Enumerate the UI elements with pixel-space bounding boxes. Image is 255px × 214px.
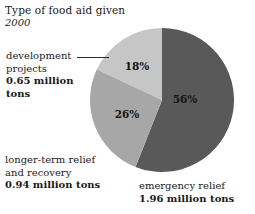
chart-title: Type of food aid given xyxy=(5,4,165,17)
callout-development-line1: development xyxy=(6,50,84,63)
callout-development-value-line2: tons xyxy=(6,88,84,101)
pie-svg: 56% 26% 18% xyxy=(88,26,236,174)
callout-longer-term-value: 0.94 million tons xyxy=(5,179,123,192)
callout-emergency-line1: emergency relief xyxy=(139,180,253,193)
pie-label-longer-term-percent: 26% xyxy=(115,108,140,120)
callout-longer-term-relief: longer-term relief and recovery 0.94 mil… xyxy=(5,154,123,192)
callout-longer-term-line2: and recovery xyxy=(5,167,123,180)
pie-label-development-percent: 18% xyxy=(125,60,150,72)
callout-development-line2: projects xyxy=(6,63,84,76)
pie-chart: 56% 26% 18% xyxy=(88,26,236,174)
callout-emergency-relief: emergency relief 1.96 million tons xyxy=(139,180,253,205)
callout-development-value-line1: 0.65 million xyxy=(6,75,84,88)
pie-chart-figure: Type of food aid given 2000 56% 26% 18% … xyxy=(0,0,255,214)
pie-label-emergency-percent: 56% xyxy=(173,93,198,105)
callout-longer-term-line1: longer-term relief xyxy=(5,154,123,167)
callout-development-projects: development projects 0.65 million tons xyxy=(6,50,84,100)
callout-emergency-value: 1.96 million tons xyxy=(139,193,253,206)
